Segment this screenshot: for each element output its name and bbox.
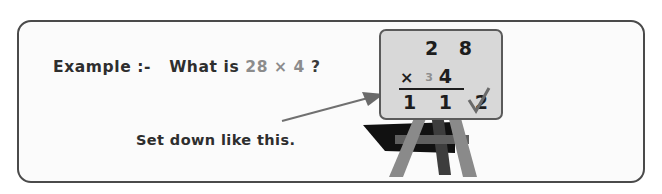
instruction-caption: Set down like this. <box>136 132 295 148</box>
multiplicand-row: 2 8 <box>425 37 479 59</box>
worksheet-figure: Example :- What is 28 × 4 ? Set down lik… <box>0 0 662 194</box>
worked-multiplication: 2 8 × 3 4 1 1 2 <box>381 31 505 122</box>
carry-digit: 3 <box>425 71 433 84</box>
check-mark-icon <box>467 87 491 115</box>
question-lead-text: Example :- What is <box>53 58 245 76</box>
sum-rule <box>399 88 464 90</box>
multiplier-digit: 4 <box>439 65 452 87</box>
blackboard: 2 8 × 3 4 1 1 2 <box>379 29 503 120</box>
example-question: Example :- What is 28 × 4 ? <box>53 58 321 76</box>
question-tail-text: ? <box>305 58 321 76</box>
multiplication-sign: × <box>400 68 413 87</box>
multiplier-row: × 3 4 <box>400 65 452 87</box>
question-expression: 28 × 4 <box>245 58 305 76</box>
